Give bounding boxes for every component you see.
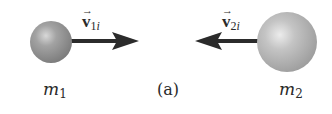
- mass-label-1: m1: [43, 81, 67, 100]
- vector-arrow-icon: →: [222, 5, 233, 16]
- velocity-label-2: →v2i: [222, 13, 240, 32]
- velocity-label-1: →v1i: [82, 13, 100, 32]
- sphere-m2: [257, 12, 317, 72]
- figure-caption: (a): [157, 82, 179, 98]
- velocity-arrow-1: [70, 32, 139, 50]
- collision-diagram: →v1i →v2i m1 m2 (a): [0, 0, 332, 114]
- mass-label-2: m2: [279, 81, 303, 100]
- vector-arrow-icon: →: [82, 5, 93, 16]
- sphere-m1: [30, 21, 72, 63]
- velocity-arrow-2: [195, 32, 260, 50]
